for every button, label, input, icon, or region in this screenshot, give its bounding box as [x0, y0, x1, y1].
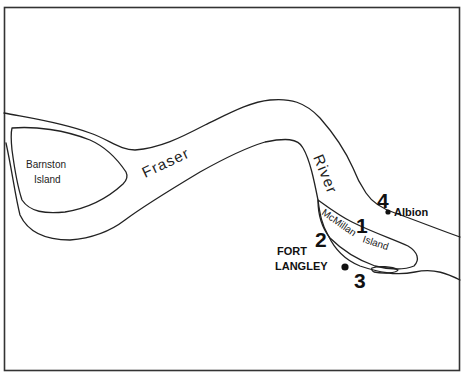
- river-label-river: River: [310, 152, 341, 196]
- fort-langley-label-line1: FORT: [277, 245, 307, 257]
- river-north-bank: [4, 100, 460, 237]
- albion-label: Albion: [394, 206, 428, 218]
- barnston-island-label-line1: Barnston: [26, 159, 66, 170]
- barnston-island-outline: [11, 128, 127, 213]
- map-canvas: Barnston Island Fraser River McMillan Is…: [0, 0, 465, 377]
- site-marker-2: 2: [315, 228, 327, 251]
- site-marker-3: 3: [354, 269, 366, 292]
- river-label-fraser: Fraser: [139, 144, 192, 181]
- barnston-island-label-line2: Island: [34, 174, 61, 185]
- fort-langley-marker: [341, 263, 348, 270]
- fort-langley-label-line2: LANGLEY: [275, 260, 328, 272]
- site-marker-4: 4: [377, 189, 389, 212]
- map-frame: [5, 8, 460, 371]
- site-marker-1: 1: [356, 214, 368, 237]
